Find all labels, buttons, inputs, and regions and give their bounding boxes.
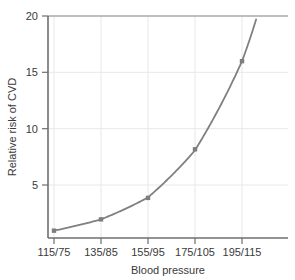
- y-tick-label-20: 20: [26, 10, 38, 22]
- y-tick-label-15: 15: [26, 66, 38, 78]
- y-tick-label-5: 5: [32, 179, 38, 191]
- y-tick-label-10: 10: [26, 123, 38, 135]
- x-tick-label-135-85: 135/85: [84, 246, 118, 258]
- x-tick-label-195-115: 195/115: [223, 246, 262, 258]
- x-tick-label-115-75: 115/75: [38, 246, 71, 258]
- data-point-175-105: [193, 147, 197, 151]
- x-tick-label-155-95: 155/95: [131, 246, 165, 258]
- data-point-115-75: [52, 228, 56, 232]
- data-point-195-115: [240, 59, 244, 63]
- y-axis-title: Relative risk of CVD: [6, 78, 18, 176]
- x-tick-label-175-105: 175/105: [175, 246, 215, 258]
- chart-container: 20 15 10 5 115/75 135/85 155/95 175/105 …: [0, 0, 295, 280]
- data-point-135-85: [99, 217, 103, 221]
- x-axis-title: Blood pressure: [131, 264, 205, 276]
- relative-risk-line-chart: 20 15 10 5 115/75 135/85 155/95 175/105 …: [0, 0, 295, 280]
- data-point-155-95: [146, 196, 150, 200]
